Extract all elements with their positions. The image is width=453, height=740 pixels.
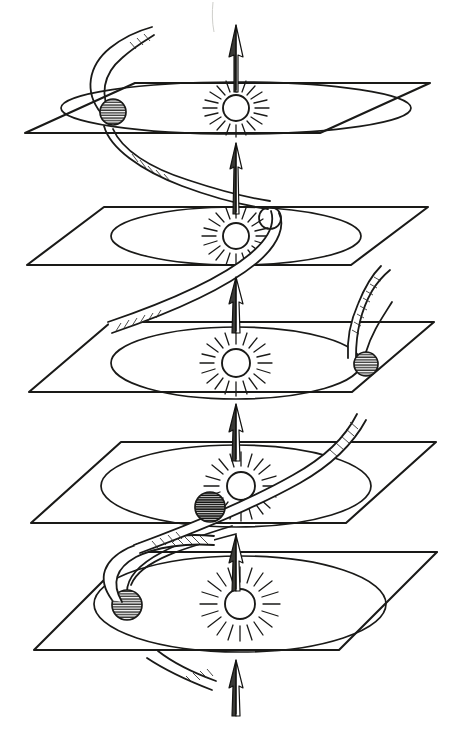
earth-4 — [195, 492, 225, 522]
earth-3 — [354, 352, 378, 376]
figure-root — [0, 0, 453, 740]
helix-orbit-diagram — [0, 0, 453, 740]
earth-1 — [100, 99, 126, 125]
